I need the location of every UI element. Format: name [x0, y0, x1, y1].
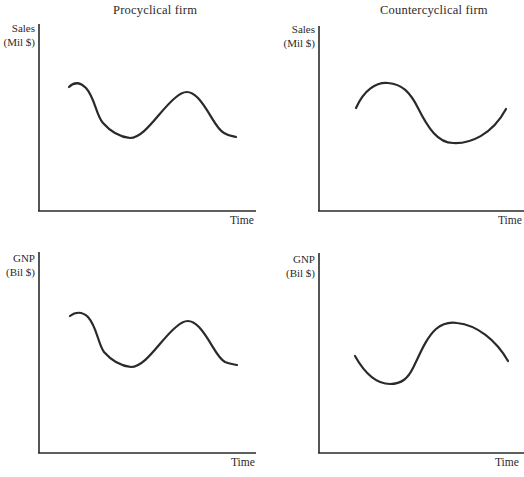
panel-bottom-left: [38, 252, 256, 453]
panel-top-right: [318, 26, 524, 211]
sales-curve: [69, 83, 236, 138]
gnp-curve: [355, 323, 508, 384]
gnp-curve: [70, 313, 237, 367]
panel-bottom-right: [318, 253, 524, 453]
panel-top-left: [38, 24, 256, 211]
sales-curve: [356, 83, 506, 143]
figure-canvas: [0, 0, 524, 477]
